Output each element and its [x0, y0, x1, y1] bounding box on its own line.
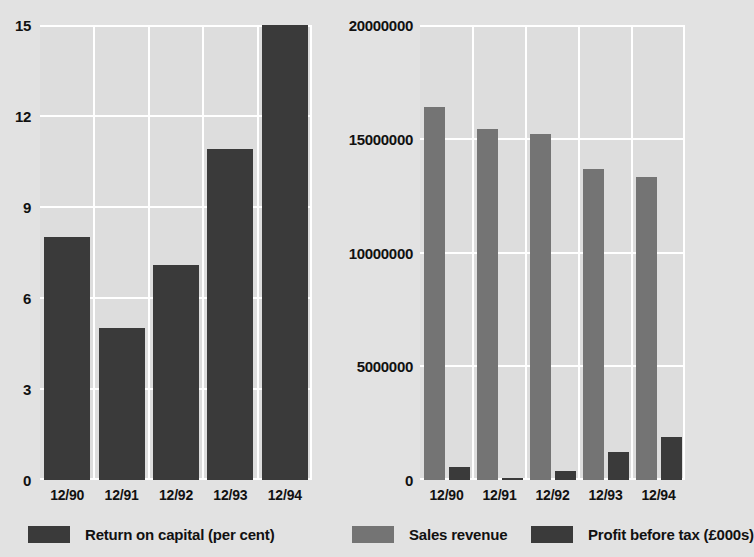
bar — [661, 437, 682, 480]
x-axis-tick-label: 12/91 — [94, 487, 148, 503]
vertical-gridline — [631, 25, 633, 480]
y-axis-tick-label: 15000000 — [349, 130, 413, 147]
y-axis-tick-label: 9 — [23, 199, 31, 216]
vertical-gridline — [578, 25, 580, 480]
right-plot-area — [420, 25, 685, 480]
y-axis-tick-label: 12 — [15, 108, 31, 125]
y-axis-tick-label: 3 — [23, 381, 31, 398]
x-axis-tick-label: 12/93 — [203, 487, 257, 503]
legend-swatch-icon-return-on-capital — [28, 526, 70, 543]
bar — [583, 169, 604, 480]
bar — [555, 471, 576, 480]
bar — [502, 478, 523, 480]
bar — [44, 237, 90, 480]
y-axis-tick-label: 6 — [23, 290, 31, 307]
y-axis-tick-label: 0 — [405, 472, 413, 489]
legend-item-profit-before-tax: Profit before tax (£000s) — [531, 526, 754, 543]
left-plot-area — [40, 25, 312, 480]
chart-sales-and-profit: 20000000150000001000000050000000 12/9012… — [345, 0, 690, 505]
vertical-gridline — [257, 25, 259, 480]
legend-label-profit-before-tax: Profit before tax (£000s) — [588, 526, 754, 543]
chart-return-on-capital: 15129630 12/9012/9112/9212/9312/94 — [0, 0, 345, 505]
vertical-gridline — [148, 25, 150, 480]
right-plot-top-border — [420, 25, 685, 27]
y-axis-tick-label: 10000000 — [349, 244, 413, 261]
vertical-gridline — [202, 25, 204, 480]
x-axis-tick-label: 12/94 — [258, 487, 312, 503]
legend-swatch-icon-sales-revenue — [352, 526, 394, 543]
x-axis-tick-label: 12/94 — [632, 487, 685, 503]
y-axis-tick-label: 20000000 — [349, 17, 413, 34]
vertical-gridline — [472, 25, 474, 480]
gridline — [420, 138, 685, 140]
legend-item-return-on-capital: Return on capital (per cent) — [28, 526, 274, 543]
y-axis-tick-label: 0 — [23, 472, 31, 489]
bar — [207, 149, 253, 480]
y-axis-tick-label: 5000000 — [357, 358, 413, 375]
bar — [636, 177, 657, 480]
x-axis-tick-label: 12/90 — [40, 487, 94, 503]
legend-swatch-icon-profit-before-tax — [531, 526, 573, 543]
vertical-gridline — [93, 25, 95, 480]
bar — [608, 452, 629, 480]
bar — [99, 328, 145, 480]
legend-item-sales-revenue: Sales revenue — [352, 526, 507, 543]
x-axis-tick-label: 12/93 — [579, 487, 632, 503]
left-plot-right-border — [310, 25, 312, 480]
bar — [262, 25, 308, 480]
legend-label-sales-revenue: Sales revenue — [409, 526, 507, 543]
legend-label-return-on-capital: Return on capital (per cent) — [85, 526, 274, 543]
bar — [477, 129, 498, 480]
x-axis-tick-label: 12/90 — [420, 487, 473, 503]
bar — [449, 467, 470, 480]
bar — [424, 107, 445, 480]
bar — [530, 134, 551, 480]
y-axis-tick-label: 15 — [15, 17, 31, 34]
x-axis-tick-label: 12/92 — [149, 487, 203, 503]
x-axis-tick-label: 12/92 — [526, 487, 579, 503]
x-axis-tick-label: 12/91 — [473, 487, 526, 503]
vertical-gridline — [525, 25, 527, 480]
bar — [153, 265, 199, 480]
